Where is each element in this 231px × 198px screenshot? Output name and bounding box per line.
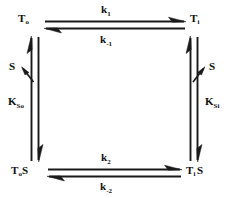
node-sub-bottom-right: i [194,170,196,178]
rate-label-top-forward: k1 [101,4,111,15]
constant-label-right: KSi [205,96,219,107]
node-base-top-right: T [190,12,198,24]
left-reversible-arrow-pair [22,36,43,162]
species-label-left-S: S [9,61,15,72]
node-label-top-left: To [18,13,29,24]
constant-base-left: K [8,95,17,107]
top-reversible-arrow-pair [44,17,186,33]
species-label-right-S: S [209,61,215,72]
rate-label-bottom-forward: k2 [101,152,111,163]
rate-sub-kminus2: -2 [106,187,112,195]
constant-sub-right: Si [214,102,220,110]
left-up-arrow [27,36,32,161]
right-up-arrow [186,36,191,161]
bottom-reversible-arrow-pair [47,165,182,181]
node-sub-top-left: o [26,18,30,26]
rate-label-bottom-reverse: k-2 [100,181,112,192]
bottom-forward-arrow [48,165,182,170]
node-label-top-right: Ti [190,13,200,24]
node-base-bottom-right: T [186,164,194,176]
node-suffix-bottom-left: S [22,164,28,176]
top-forward-arrow [45,17,186,22]
node-label-bottom-right: TiS [186,165,203,176]
right-substrate-release-arrow [193,67,205,82]
bottom-reverse-arrow [47,176,181,181]
constant-label-left: KSo [8,96,24,107]
node-base-top-left: T [18,12,26,24]
constant-sub-left: So [17,102,24,110]
right-down-arrow [197,37,202,162]
right-reversible-arrow-pair [186,36,205,162]
constant-base-right: K [205,95,214,107]
kinetic-cycle-diagram: To Ti ToS TiS k1 k-1 k2 k-2 S S KSo KSi [0,0,231,198]
node-base-bottom-left: T [11,164,19,176]
top-reverse-arrow [44,28,185,33]
node-sub-top-right: i [198,18,200,26]
rate-sub-kminus1: -1 [106,40,112,48]
left-down-arrow [38,37,43,162]
rate-label-top-reverse: k-1 [100,34,112,45]
node-label-bottom-left: ToS [11,165,28,176]
rate-sub-k2: 2 [107,158,111,166]
rate-sub-k1: 1 [107,10,111,18]
node-sub-bottom-left: o [19,170,23,178]
node-suffix-bottom-right: S [196,164,204,176]
